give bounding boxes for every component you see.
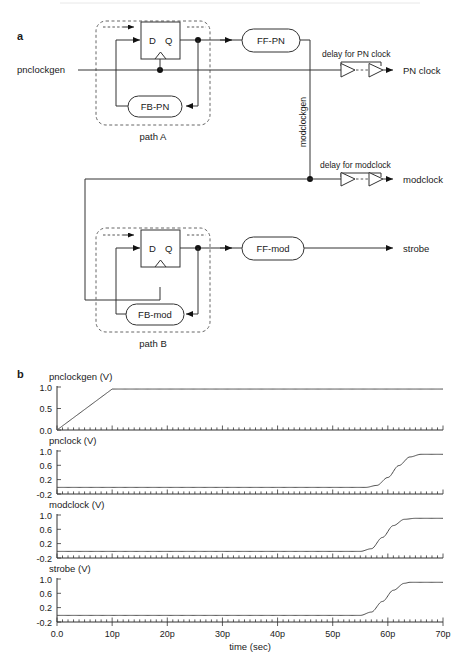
plot4-ytick-2: 0.6 xyxy=(39,589,52,599)
strobe-output-label: strobe xyxy=(403,243,429,254)
x-tick-label-7: 70p xyxy=(435,629,450,639)
plot2-curve xyxy=(57,454,443,487)
plot-pnclockgen-title: pnclockgen (V) xyxy=(49,371,112,382)
path-a-label: path A xyxy=(140,131,168,142)
plot4-ytick-1: 1.0 xyxy=(39,575,52,585)
figure-svg: a path A D Q FB-PN FF-PN modclockgen pnc… xyxy=(0,0,469,656)
plot-pnclock-title: pnclock (V) xyxy=(49,435,97,446)
plot1-curve xyxy=(57,389,443,430)
plot-pnclock: pnclock (V) 1.0 0.6 0.2 -0.2 xyxy=(36,435,443,500)
x-tick-label-1: 10p xyxy=(105,629,120,639)
figure-root: a path A D Q FB-PN FF-PN modclockgen pnc… xyxy=(0,0,469,656)
plot3-ytick-4: -0.2 xyxy=(36,554,52,564)
dff-a-d-label: D xyxy=(149,35,156,46)
dff-a-q-label: Q xyxy=(165,35,172,46)
ff-mod-label: FF-mod xyxy=(256,243,289,254)
path-b-label: path B xyxy=(139,338,166,349)
plot4-ytick-4: -0.2 xyxy=(36,618,52,628)
ff-pn-label: FF-PN xyxy=(257,35,285,46)
x-tick-label-4: 40p xyxy=(270,629,285,639)
plot4-ytick-3: 0.2 xyxy=(39,603,52,613)
delay-pn-clock-label: delay for PN clock xyxy=(322,49,391,59)
plot-strobe-title: strobe (V) xyxy=(49,563,91,574)
plot-strobe: strobe (V) 1.0 0.6 0.2 -0.2 0.010p20p30p… xyxy=(36,563,450,652)
plot1-ytick-3: 0.0 xyxy=(39,426,52,436)
plot2-ytick-1: 1.0 xyxy=(39,447,52,457)
plot3-ytick-3: 0.2 xyxy=(39,539,52,549)
delay-pn-clock-bracket xyxy=(341,62,381,66)
delay-modclock-label: delay for modclock xyxy=(320,160,392,170)
plot-pnclockgen: pnclockgen (V) 1.0 0.5 0.0 xyxy=(39,371,443,436)
x-axis-label: time (sec) xyxy=(229,641,271,652)
dff-a-box xyxy=(141,22,180,59)
x-tick-label-6: 60p xyxy=(380,629,395,639)
x-tick-label-2: 20p xyxy=(160,629,175,639)
delay-pn-buffer-1 xyxy=(341,64,355,78)
pn-clock-output-label: PN clock xyxy=(403,65,441,76)
pnclockgen-input-label: pnclockgen xyxy=(17,64,65,75)
plot2-ytick-3: 0.2 xyxy=(39,475,52,485)
plot2-ytick-4: -0.2 xyxy=(36,490,52,500)
plot4-curve xyxy=(57,582,443,615)
plot3-ytick-1: 1.0 xyxy=(39,511,52,521)
plot2-ytick-2: 0.6 xyxy=(39,461,52,471)
fb-pn-label: FB-PN xyxy=(141,101,170,112)
dff-b-d-label: D xyxy=(149,243,156,254)
plot1-ytick-1: 1.0 xyxy=(39,383,52,393)
x-tick-label-5: 50p xyxy=(325,629,340,639)
plot-modclock: modclock (V) 1.0 0.6 0.2 -0.2 xyxy=(36,499,443,564)
panel-b-letter: b xyxy=(17,368,24,380)
modclockgen-label: modclockgen xyxy=(298,97,308,147)
x-tick-label-3: 30p xyxy=(215,629,230,639)
panel-a-letter: a xyxy=(17,30,24,42)
plot3-curve xyxy=(57,518,443,551)
dff-b-box xyxy=(141,230,180,267)
x-tick-label-0: 0.0 xyxy=(51,629,64,639)
plot-modclock-title: modclock (V) xyxy=(49,499,104,510)
fb-mod-label: FB-mod xyxy=(138,309,172,320)
plot1-ytick-2: 0.5 xyxy=(39,404,52,414)
modclock-output-label: modclock xyxy=(403,174,443,185)
delay-mod-buffer-1 xyxy=(341,173,355,187)
plot3-ytick-2: 0.6 xyxy=(39,525,52,535)
dff-b-q-label: Q xyxy=(165,243,172,254)
